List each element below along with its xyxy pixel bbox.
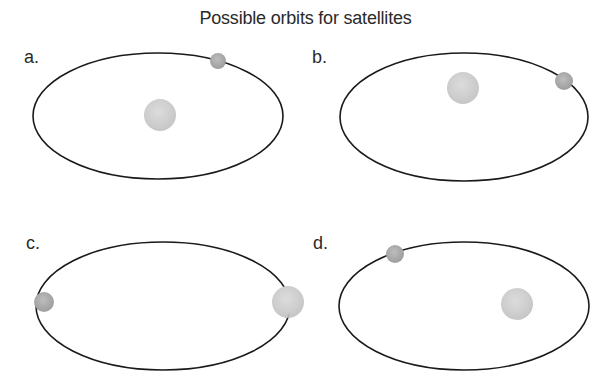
orbit-panel-a — [33, 53, 283, 179]
satellite-icon — [210, 53, 226, 69]
orbit-panel-c — [34, 242, 304, 370]
orbit-panel-d — [339, 242, 589, 370]
orbits-diagram — [0, 0, 611, 386]
planet-icon — [272, 286, 304, 318]
orbit-path — [36, 242, 290, 370]
orbit-panel-b — [340, 53, 588, 181]
satellite-icon — [386, 245, 404, 263]
satellite-icon — [34, 292, 54, 312]
planet-icon — [144, 99, 176, 131]
satellite-icon — [555, 72, 573, 90]
planet-icon — [447, 72, 479, 104]
orbit-path — [339, 242, 589, 370]
planet-icon — [501, 288, 533, 320]
